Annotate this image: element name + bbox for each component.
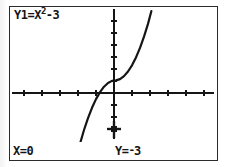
y-readout-label: Y= bbox=[115, 144, 128, 158]
equation-label: Y1=X2-3 bbox=[13, 9, 60, 22]
x-readout-value: 0 bbox=[26, 144, 33, 158]
trace-cursor[interactable] bbox=[107, 121, 121, 138]
calculator-screenshot: Y1=X2-3 X=0 Y=-3 bbox=[0, 0, 234, 167]
x-readout-label: X= bbox=[13, 144, 26, 158]
graph-canvas bbox=[10, 7, 216, 159]
y-readout: Y=-3 bbox=[115, 143, 141, 158]
equation-prefix: Y1=X bbox=[14, 8, 41, 22]
scan-edge-artifact bbox=[0, 0, 7, 167]
x-readout: X=0 bbox=[13, 145, 33, 158]
graph-plot-area[interactable] bbox=[10, 7, 216, 159]
calculator-screen: Y1=X2-3 X=0 Y=-3 bbox=[9, 6, 218, 161]
trace-readout-bar: X=0 Y=-3 bbox=[10, 142, 216, 160]
equation-suffix: -3 bbox=[46, 8, 59, 22]
y-readout-value: 3 bbox=[134, 144, 141, 158]
